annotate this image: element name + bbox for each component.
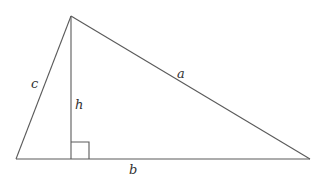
label-a: a — [177, 66, 185, 81]
triangle-diagram: c h a b — [0, 0, 324, 181]
label-b: b — [129, 162, 137, 177]
label-c: c — [31, 76, 39, 91]
side-c — [16, 16, 71, 159]
right-angle-marker — [71, 142, 89, 159]
side-a — [71, 16, 310, 159]
label-h: h — [75, 97, 83, 112]
